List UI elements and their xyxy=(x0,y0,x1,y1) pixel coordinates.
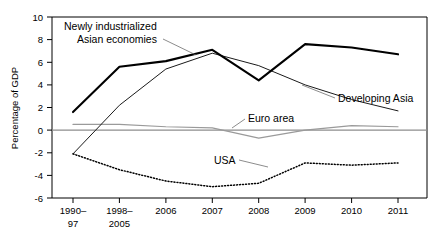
y-tick-minus2: -2 xyxy=(35,147,43,158)
series-line-euro-area xyxy=(73,124,398,138)
line-chart: 10 8 6 4 2 0 -2 -4 -6 Percentage of GDP … xyxy=(0,0,446,249)
x-tick-2009: 2009 xyxy=(295,205,316,216)
y-tick-minus4: -4 xyxy=(35,170,43,181)
x-axis-ticks xyxy=(73,198,398,203)
x-tick-2008: 2008 xyxy=(248,205,269,216)
y-axis-title: Percentage of GDP xyxy=(9,67,20,149)
y-tick-2: 2 xyxy=(38,102,43,113)
annotation-developing-asia: Developing Asia xyxy=(338,92,413,104)
x-tick-1998-2005-line2: 2005 xyxy=(109,218,130,229)
x-tick-1990-97-line2: 97 xyxy=(68,218,79,229)
x-tick-2010: 2010 xyxy=(341,205,362,216)
leader-euro-area xyxy=(232,119,245,128)
x-tick-2007: 2007 xyxy=(202,205,223,216)
x-tick-1990-97-line1: 1990– xyxy=(60,205,87,216)
series-annotations: Newly industrialized Asian economies Dev… xyxy=(64,20,413,166)
annotation-newly-industrialized-line1: Newly industrialized xyxy=(64,20,157,32)
y-axis-ticks xyxy=(47,17,52,198)
annotation-newly-industrialized-line2: Asian economies xyxy=(77,33,157,45)
y-axis-tick-labels: 10 8 6 4 2 0 -2 -4 -6 xyxy=(32,12,43,204)
x-tick-2006: 2006 xyxy=(155,205,176,216)
y-tick-10: 10 xyxy=(32,12,43,23)
annotation-usa: USA xyxy=(214,154,236,166)
x-tick-2011: 2011 xyxy=(388,205,408,216)
x-axis-tick-labels: 1990– 97 1998– 2005 2006 2007 2008 2009 … xyxy=(60,205,408,229)
y-tick-0: 0 xyxy=(38,125,43,136)
chart-container: 10 8 6 4 2 0 -2 -4 -6 Percentage of GDP … xyxy=(0,0,446,249)
leader-newly-industrialized xyxy=(163,39,196,55)
leader-developing-asia xyxy=(302,85,335,98)
annotation-euro-area: Euro area xyxy=(248,112,294,124)
x-tick-1998-2005-line1: 1998– xyxy=(106,205,133,216)
leader-usa xyxy=(239,160,268,167)
y-tick-8: 8 xyxy=(38,34,43,45)
y-tick-minus6: -6 xyxy=(35,193,43,204)
y-tick-6: 6 xyxy=(38,57,43,68)
y-tick-4: 4 xyxy=(38,79,43,90)
annotation-leaders xyxy=(163,39,335,167)
